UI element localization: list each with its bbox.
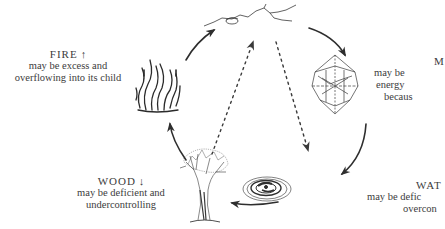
crystal-icon [312,55,358,114]
arrow-wood-to-fire [170,124,186,160]
arrow-wood-to-earth [212,42,253,154]
mountain-icon [204,4,296,26]
metal-desc-line2: energy [376,79,445,91]
wood-title: WOOD↓ [63,175,179,187]
wood-desc-line1: may be deficient and [63,187,179,199]
water-title: WAT [375,179,445,191]
water-label: WAT may be defic overcon [375,179,445,215]
wood-label: WOOD↓ may be deficient and undercontroll… [63,175,179,211]
wood-desc-line2: undercontrolling [63,199,179,211]
metal-title: M [388,55,445,67]
arrow-earth-to-metal [309,28,345,55]
water-desc-line2: overcon [375,203,445,215]
fire-label: FIRE↑ may be excess and overflowing into… [10,48,126,84]
fire-title: FIRE↑ [10,48,126,60]
water-ripple-icon [243,177,291,201]
flame-icon [136,60,180,112]
fire-desc-line2: overflowing into its child [10,72,126,84]
arrow-earth-to-water [276,42,308,150]
fire-desc-line1: may be excess and [10,60,126,72]
water-desc-line1: may be defic [367,191,445,203]
metal-desc-line3: becaus [384,91,445,103]
arrow-metal-to-water [342,124,366,174]
metal-label: M may be energy becaus [388,55,445,103]
up-arrow-icon: ↑ [81,48,87,60]
metal-desc-line1: may be [374,67,445,79]
controlling-cycle-arrows [212,42,308,154]
generating-cycle-arrows [170,28,366,205]
tree-icon [180,149,228,222]
arrow-fire-to-earth [186,30,214,60]
down-arrow-icon: ↓ [139,175,145,187]
arrow-water-to-wood [232,202,278,205]
